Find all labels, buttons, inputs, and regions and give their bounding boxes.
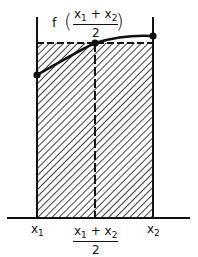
function-symbol: f xyxy=(52,16,57,29)
midpoint-denominator: 2 xyxy=(92,242,100,256)
midpoint-axis-label: x1 + x2 2 xyxy=(73,225,118,256)
midpoint-fraction: x1 + x2 2 xyxy=(73,8,118,39)
midpoint-numerator: x1 + x2 xyxy=(73,225,118,242)
open-paren: ( xyxy=(64,11,72,31)
point-f-midpoint xyxy=(91,39,98,46)
fraction-numerator: x1 + x2 xyxy=(73,8,118,25)
x2-label: x2 xyxy=(147,223,160,238)
fraction-denominator: 2 xyxy=(92,25,100,39)
x1-label: x1 xyxy=(31,223,44,238)
close-paren: ) xyxy=(116,11,124,31)
point-f-x1 xyxy=(33,71,40,78)
midpoint-function-label: f ( x1 + x2 2 ) xyxy=(52,6,152,36)
